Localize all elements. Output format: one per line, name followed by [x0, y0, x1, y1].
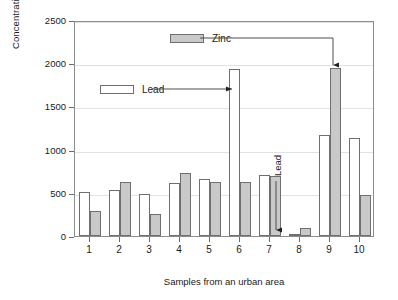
legend-item-lead[interactable]: Lead	[100, 84, 164, 95]
legend-item-zinc[interactable]: Zinc	[170, 33, 231, 44]
legend-label-zinc: Zinc	[212, 33, 231, 44]
bar-zinc-8[interactable]	[300, 228, 311, 236]
x-tick-mark	[269, 237, 270, 242]
bar-lead-6[interactable]	[229, 69, 240, 236]
bar-zinc-5[interactable]	[210, 182, 221, 236]
x-tick-label-5: 5	[194, 244, 224, 255]
bar-zinc-2[interactable]	[120, 182, 131, 236]
x-tick-label-2: 2	[104, 244, 134, 255]
x-tick-mark	[359, 237, 360, 242]
plot-inner	[75, 22, 373, 236]
x-tick-label-6: 6	[224, 244, 254, 255]
bar-zinc-6[interactable]	[240, 182, 251, 236]
bar-lead-10[interactable]	[349, 138, 360, 236]
y-tick-mark	[69, 237, 74, 238]
y-tick-label: 500	[26, 189, 66, 199]
y-tick-label: 1500	[26, 102, 66, 112]
bar-lead-2[interactable]	[109, 190, 120, 236]
y-axis-title: Concentration (mg/kg)	[10, 0, 26, 76]
y-tick-label: 1000	[26, 146, 66, 156]
bar-zinc-7[interactable]	[270, 176, 281, 236]
y-tick-label: 2500	[26, 16, 66, 26]
x-tick-label-1: 1	[74, 244, 104, 255]
lead-vertical-callout-label: Lead	[272, 155, 283, 176]
x-tick-mark	[119, 237, 120, 242]
bar-lead-7[interactable]	[259, 175, 270, 236]
x-tick-mark	[299, 237, 300, 242]
bar-lead-3[interactable]	[139, 194, 150, 236]
x-tick-label-3: 3	[134, 244, 164, 255]
bar-chart-figure: Concentration (mg/kg) 050010001500200025…	[0, 0, 398, 300]
x-tick-label-10: 10	[344, 244, 374, 255]
x-tick-mark	[209, 237, 210, 242]
x-tick-mark	[239, 237, 240, 242]
bar-zinc-9[interactable]	[330, 68, 341, 236]
legend-label-lead: Lead	[142, 84, 164, 95]
x-tick-mark	[149, 237, 150, 242]
x-tick-mark	[179, 237, 180, 242]
bar-lead-5[interactable]	[199, 179, 210, 236]
bar-zinc-1[interactable]	[90, 211, 101, 236]
y-tick-label: 0	[26, 232, 66, 242]
bar-zinc-3[interactable]	[150, 214, 161, 236]
bar-zinc-10[interactable]	[360, 195, 371, 236]
x-tick-label-9: 9	[314, 244, 344, 255]
bar-lead-4[interactable]	[169, 183, 180, 236]
gridline	[75, 65, 373, 66]
x-tick-label-7: 7	[254, 244, 284, 255]
x-axis-title: Samples from an urban area	[74, 276, 374, 287]
gridline	[75, 108, 373, 109]
bar-lead-9[interactable]	[319, 135, 330, 236]
plot-area	[74, 21, 374, 237]
bar-lead-1[interactable]	[79, 192, 90, 236]
y-tick-label: 2000	[26, 59, 66, 69]
bar-zinc-4[interactable]	[180, 173, 191, 236]
lead-swatch-icon	[100, 85, 134, 94]
x-tick-label-8: 8	[284, 244, 314, 255]
bar-lead-8[interactable]	[289, 234, 300, 236]
zinc-swatch-icon	[170, 34, 204, 43]
x-tick-label-4: 4	[164, 244, 194, 255]
gridline	[75, 22, 373, 23]
x-tick-mark	[329, 237, 330, 242]
x-tick-mark	[89, 237, 90, 242]
